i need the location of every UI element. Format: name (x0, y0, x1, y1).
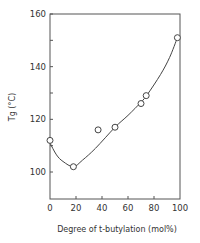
x-tick-label: 80 (149, 203, 160, 213)
tg-vs-butylation-chart: 100120140160 020406080100 Degree of t-bu… (0, 0, 200, 243)
fitted-curve (50, 38, 177, 167)
x-tick-label: 100 (172, 203, 188, 213)
y-tick-label: 120 (30, 114, 46, 124)
data-point-marker (174, 35, 180, 41)
x-tick-label: 20 (71, 203, 82, 213)
y-tick-label: 160 (30, 9, 46, 19)
data-point-marker (112, 124, 118, 130)
y-axis-label: Tg (°C) (8, 93, 17, 122)
data-points (47, 35, 180, 170)
data-point-marker (95, 127, 101, 133)
data-point-marker (47, 137, 53, 143)
x-tick-label: 0 (47, 203, 52, 213)
data-point-marker (143, 93, 149, 99)
x-tick-label: 60 (123, 203, 134, 213)
y-tick-label: 100 (30, 167, 46, 177)
x-axis-label: Degree of t-butylation (mol%) (57, 225, 177, 234)
x-tick-label: 40 (97, 203, 108, 213)
y-tick-label: 140 (30, 62, 46, 72)
data-point-marker (70, 164, 76, 170)
data-point-marker (138, 101, 144, 107)
plot-frame (50, 14, 180, 199)
